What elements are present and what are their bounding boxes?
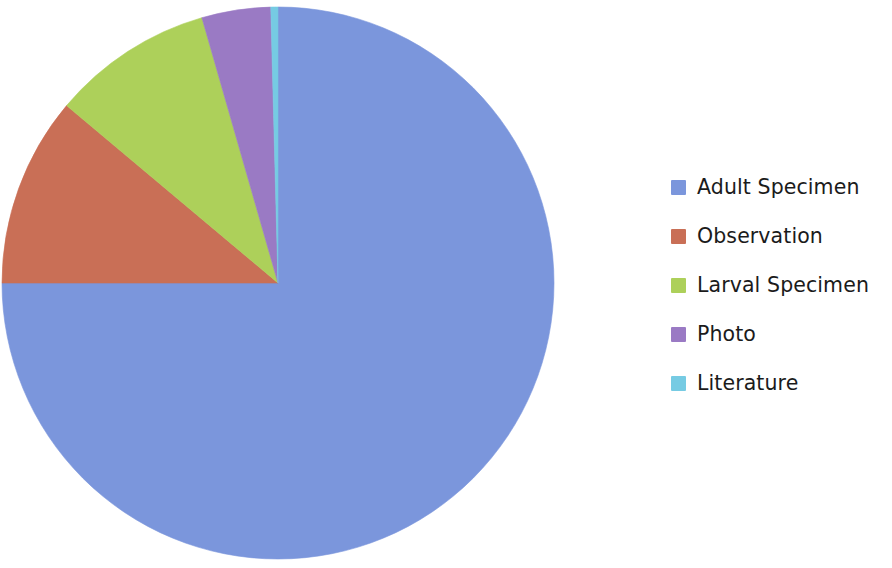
pie-chart-figure: Adult Specimen Observation Larval Specim… <box>0 0 892 568</box>
legend-item-photo[interactable]: Photo <box>671 310 892 359</box>
legend-label: Larval Specimen <box>697 274 869 297</box>
legend-swatch-icon <box>671 278 686 293</box>
pie-slice-group <box>2 7 554 559</box>
legend-item-adult-specimen[interactable]: Adult Specimen <box>671 163 892 212</box>
legend-item-observation[interactable]: Observation <box>671 212 892 261</box>
legend-label: Literature <box>697 372 798 395</box>
legend-swatch-icon <box>671 229 686 244</box>
legend-label: Observation <box>697 225 823 248</box>
pie-svg <box>0 0 640 568</box>
legend-swatch-icon <box>671 327 686 342</box>
chart-legend: Adult Specimen Observation Larval Specim… <box>671 163 892 408</box>
pie-plot-area <box>0 0 640 568</box>
legend-swatch-icon <box>671 376 686 391</box>
legend-label: Adult Specimen <box>697 176 860 199</box>
legend-label: Photo <box>697 323 756 346</box>
legend-item-larval-specimen[interactable]: Larval Specimen <box>671 261 892 310</box>
legend-item-literature[interactable]: Literature <box>671 359 892 408</box>
legend-swatch-icon <box>671 180 686 195</box>
